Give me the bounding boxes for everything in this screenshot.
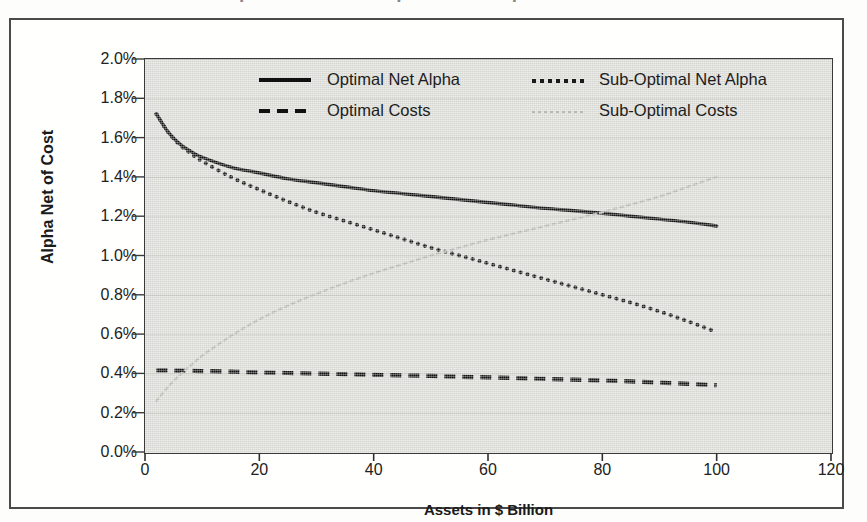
figure-border: Alpha Net of Cost 0.0%0.2%0.4%0.6%0.8%1.…: [9, 18, 844, 509]
y-axis-tick-label: 1.4%: [75, 168, 137, 186]
legend-label: Sub-Optimal Net Alpha: [599, 70, 767, 89]
x-axis-tick-label: 20: [229, 461, 289, 479]
legend-swatch-dotted-line-icon: [529, 73, 585, 87]
series-line-sub-optimal-net-alpha: [156, 114, 716, 332]
y-axis-tick-labels: 0.0%0.2%0.4%0.6%0.8%1.0%1.2%1.4%1.6%1.8%…: [71, 58, 137, 454]
legend-entry-sub-optimal-net-alpha: Sub-Optimal Net Alpha: [529, 64, 817, 95]
x-axis-tick-label: 40: [344, 461, 404, 479]
series-line-optimal-costs: [156, 370, 716, 385]
series-line-sub-optimal-costs: [156, 177, 716, 401]
legend-swatch-gray-dotted-line-icon: [529, 104, 585, 118]
scanned-figure-page: Optimal and Sub-Optimal Net Alpha and Co…: [0, 0, 867, 522]
y-axis-tick-label: 1.8%: [75, 89, 137, 107]
y-axis-tick-label: 1.2%: [75, 207, 137, 225]
y-axis-tick-label: 0.2%: [75, 404, 137, 422]
x-axis-tick-label: 80: [572, 461, 632, 479]
series-line-optimal-net-alpha: [156, 114, 716, 226]
legend-label: Optimal Costs: [327, 101, 431, 120]
y-axis-tick-label: 0.8%: [75, 286, 137, 304]
y-axis-tick-label: 1.6%: [75, 129, 137, 147]
x-axis-tick-label: 60: [458, 461, 518, 479]
y-axis-tick-label: 0.6%: [75, 325, 137, 343]
y-axis-tick-label: 1.0%: [75, 247, 137, 265]
legend-swatch-dashed-line-icon: [257, 104, 313, 118]
figure-title-cropped: Optimal and Sub-Optimal Net Alpha and Co…: [0, 0, 867, 10]
legend-label: Optimal Net Alpha: [327, 70, 460, 89]
legend-label: Sub-Optimal Costs: [599, 101, 737, 120]
legend-entry-optimal-costs: Optimal Costs: [257, 95, 529, 126]
y-axis-title: Alpha Net of Cost: [39, 82, 57, 312]
y-axis-tick-label: 2.0%: [75, 50, 137, 68]
legend-swatch-solid-line-icon: [257, 73, 313, 87]
x-axis-tick-label: 100: [687, 461, 747, 479]
x-axis-tick-labels: 020406080100120: [144, 461, 833, 487]
y-axis-tick-label: 0.0%: [75, 443, 137, 461]
legend-entry-optimal-net-alpha: Optimal Net Alpha: [257, 64, 529, 95]
chart-legend: Optimal Net Alpha Sub-Optimal Net Alpha …: [257, 64, 817, 126]
x-axis-tick-label: 120: [801, 461, 861, 479]
y-axis-tick-label: 0.4%: [75, 364, 137, 382]
x-axis-tick-marks: [144, 453, 833, 463]
y-axis-tick-marks: [130, 58, 146, 454]
legend-entry-sub-optimal-costs: Sub-Optimal Costs: [529, 95, 817, 126]
x-axis-tick-label: 0: [115, 461, 175, 479]
x-axis-title: Assets in $ Billion: [144, 501, 833, 518]
